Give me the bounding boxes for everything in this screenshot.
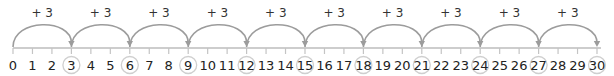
number-line-svg: 0123456789101112131415161718192021222324… xyxy=(0,0,614,76)
jump-label: + 3 xyxy=(499,6,521,20)
tick-label: 7 xyxy=(145,58,153,73)
tick-label: 18 xyxy=(355,58,372,73)
tick-label: 27 xyxy=(530,58,547,73)
jump-arc xyxy=(71,25,129,47)
tick-label: 15 xyxy=(297,58,314,73)
number-line-diagram: 0123456789101112131415161718192021222324… xyxy=(0,0,614,76)
tick-labels: 0123456789101112131415161718192021222324… xyxy=(9,58,605,73)
tick-label: 3 xyxy=(67,58,75,73)
jump-arc xyxy=(422,25,480,47)
tick-label: 24 xyxy=(472,58,489,73)
tick-label: 22 xyxy=(433,58,450,73)
jump-labels: + 3+ 3+ 3+ 3+ 3+ 3+ 3+ 3+ 3+ 3 xyxy=(31,6,578,20)
tick-label: 20 xyxy=(394,58,411,73)
ticks xyxy=(13,48,597,54)
jump-arcs xyxy=(13,25,600,47)
arrowhead-icon xyxy=(594,41,600,47)
tick-label: 28 xyxy=(550,58,567,73)
tick-label: 25 xyxy=(491,58,508,73)
tick-label: 21 xyxy=(414,58,431,73)
jump-arc xyxy=(188,25,246,47)
jump-arc xyxy=(247,25,305,47)
tick-label: 14 xyxy=(277,58,294,73)
tick-label: 2 xyxy=(48,58,56,73)
jump-label: + 3 xyxy=(90,6,112,20)
tick-label: 19 xyxy=(375,58,392,73)
tick-label: 12 xyxy=(238,58,255,73)
tick-label: 11 xyxy=(219,58,236,73)
tick-label: 4 xyxy=(87,58,95,73)
tick-label: 13 xyxy=(258,58,275,73)
jump-arc xyxy=(480,25,538,47)
jump-arc xyxy=(305,25,363,47)
jump-arc xyxy=(130,25,188,47)
jump-label: + 3 xyxy=(440,6,462,20)
tick-label: 0 xyxy=(9,58,17,73)
tick-label: 8 xyxy=(165,58,173,73)
jump-label: + 3 xyxy=(31,6,53,20)
tick-label: 30 xyxy=(589,58,606,73)
tick-label: 29 xyxy=(569,58,586,73)
jump-arc xyxy=(539,25,597,47)
tick-label: 16 xyxy=(316,58,333,73)
tick-label: 17 xyxy=(336,58,353,73)
jump-arc xyxy=(363,25,421,47)
tick-label: 5 xyxy=(106,58,114,73)
jump-label: + 3 xyxy=(148,6,170,20)
tick-label: 26 xyxy=(511,58,528,73)
tick-label: 1 xyxy=(28,58,36,73)
tick-label: 23 xyxy=(452,58,469,73)
jump-label: + 3 xyxy=(323,6,345,20)
jump-arc xyxy=(13,25,71,47)
tick-label: 6 xyxy=(126,58,134,73)
jump-label: + 3 xyxy=(557,6,579,20)
jump-label: + 3 xyxy=(265,6,287,20)
tick-label: 9 xyxy=(184,58,192,73)
tick-label: 10 xyxy=(199,58,216,73)
jump-label: + 3 xyxy=(382,6,404,20)
jump-label: + 3 xyxy=(207,6,229,20)
